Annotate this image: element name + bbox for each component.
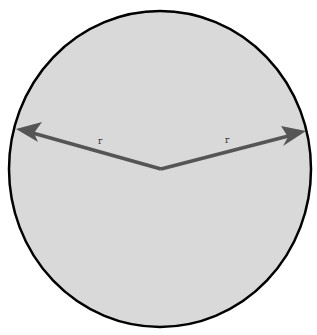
radius-label-right: r xyxy=(225,135,230,145)
radius-label-left: r xyxy=(98,136,103,146)
circle-radius-diagram: r r xyxy=(0,0,317,335)
